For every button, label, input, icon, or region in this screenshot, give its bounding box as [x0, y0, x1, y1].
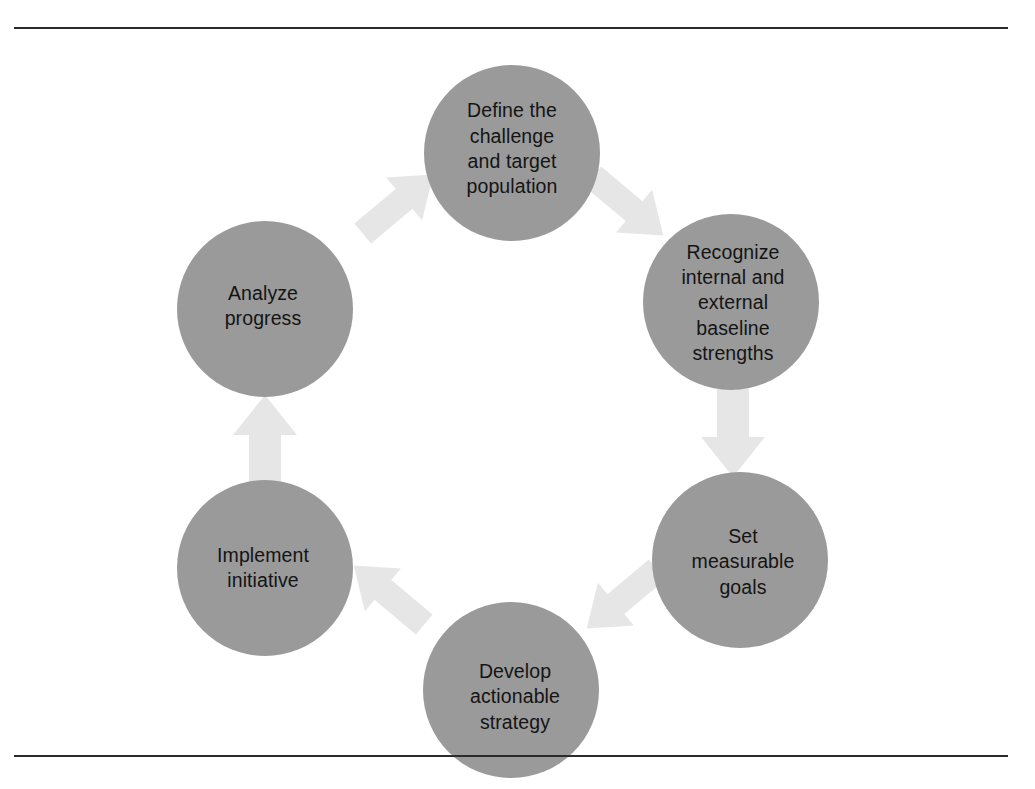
cycle-diagram: Define the challenge and target populati…: [0, 29, 1035, 754]
arrow-implement-to-analyze: [233, 395, 297, 483]
node-define[interactable]: Define the challenge and target populati…: [424, 65, 600, 241]
node-set-measurable-goals[interactable]: Set measurable goals: [652, 472, 828, 648]
node-analyze-label: Analyze progress: [219, 281, 308, 332]
node-strategy-label: Develop actionable strategy: [464, 659, 566, 735]
figure-frame: Define the challenge and target populati…: [0, 0, 1035, 789]
node-recognize-label: Recognize internal and external baseline…: [675, 240, 790, 367]
node-implement-label: Implement initiative: [211, 543, 315, 594]
node-implement-initiative[interactable]: Implement initiative: [177, 480, 353, 656]
node-recognize[interactable]: Recognize internal and external baseline…: [643, 214, 819, 390]
node-goals-label: Set measurable goals: [686, 524, 801, 600]
node-define-label: Define the challenge and target populati…: [461, 98, 564, 199]
bottom-rule: [14, 755, 1008, 757]
node-develop-strategy[interactable]: Develop actionable strategy: [423, 602, 599, 778]
node-analyze-progress[interactable]: Analyze progress: [177, 221, 353, 397]
arrow-recognize-to-goals: [701, 389, 765, 477]
